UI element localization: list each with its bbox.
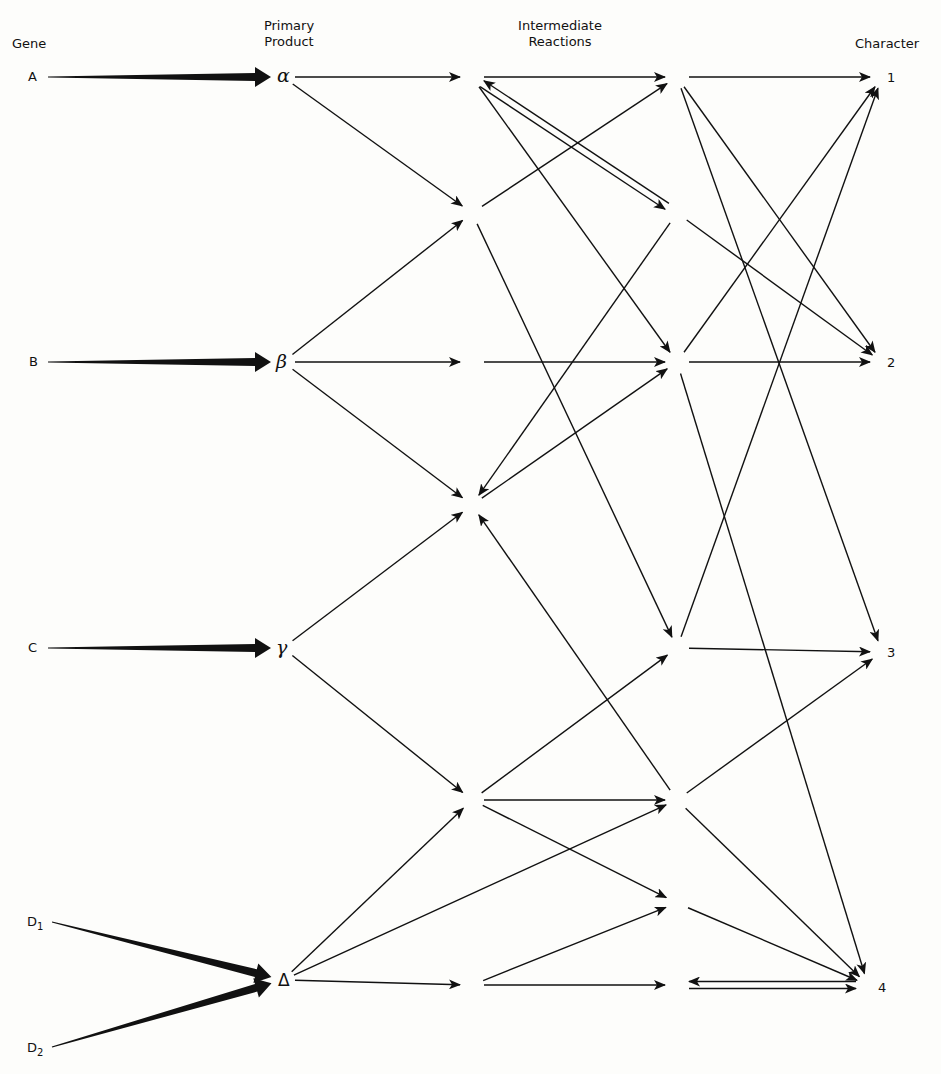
arrow-beta-to-I1b xyxy=(292,220,462,354)
arrow-gamma-to-I1e xyxy=(292,656,462,793)
character-4: 4 xyxy=(878,980,886,995)
arrow-I2b-to-I1a xyxy=(484,81,669,204)
header-gene: Gene xyxy=(12,36,46,52)
product-gamma: γ xyxy=(276,636,287,658)
character-3-text: 3 xyxy=(887,645,895,660)
header-character: Character xyxy=(855,36,919,52)
arrow-I1e-to-I2f xyxy=(483,805,667,897)
arrow-I2d-to-C3 xyxy=(689,648,870,652)
arrow-I1a-to-I2b xyxy=(480,87,665,210)
gene-d1-text: D xyxy=(27,914,37,929)
arrow-gamma-to-I1d xyxy=(293,512,463,641)
character-4-text: 4 xyxy=(878,980,886,995)
gene-label-c: C xyxy=(28,640,37,655)
gene-b-text: B xyxy=(29,354,38,369)
character-2: 2 xyxy=(887,355,895,370)
arrow-beta-to-I1d xyxy=(293,369,463,498)
arrow-I1e-to-I2d xyxy=(482,655,668,793)
arrow-I1f-to-I2f xyxy=(483,907,666,980)
gene-label-a: A xyxy=(28,69,37,84)
product-alpha-text: α xyxy=(277,64,290,86)
arrow-I2f-to-C4 xyxy=(688,908,857,981)
product-beta: β xyxy=(276,350,287,372)
thick-arrow-D2-to-delta xyxy=(52,978,272,1047)
header-primary-product: Primary Product xyxy=(254,18,324,50)
product-gamma-text: γ xyxy=(276,636,287,658)
arrow-I1b-to-I2d xyxy=(477,224,672,637)
header-intermediate-reactions: Intermediate Reactions xyxy=(510,18,610,50)
thick-arrow-B-to-beta xyxy=(48,352,271,372)
gene-character-network-diagram xyxy=(0,0,941,1074)
header-intermediate-line2: Reactions xyxy=(510,34,610,50)
gene-label-d1: D1 xyxy=(27,914,43,932)
arrow-I2e-to-C3 xyxy=(687,659,873,793)
arrow-delta-to-I1e xyxy=(292,808,464,971)
arrow-I1b-to-I2a xyxy=(482,84,667,207)
thick-arrow-A-to-alpha xyxy=(48,67,271,87)
character-3: 3 xyxy=(887,645,895,660)
arrow-delta-to-I1f xyxy=(295,980,460,984)
thick-arrow-D1-to-delta xyxy=(52,921,272,983)
arrow-I2e-to-C4 xyxy=(686,808,860,976)
arrow-alpha-to-I1b xyxy=(293,84,463,206)
character-1-text: 1 xyxy=(887,70,895,85)
gene-c-text: C xyxy=(28,640,37,655)
arrow-I2e-to-I1d xyxy=(479,515,670,790)
arrow-I2c-to-C4 xyxy=(681,373,865,973)
arrow-I2b-to-C2 xyxy=(687,220,873,355)
header-primary-line1: Primary xyxy=(254,18,324,34)
gene-a-text: A xyxy=(28,69,37,84)
header-intermediate-line1: Intermediate xyxy=(510,18,610,34)
header-primary-line2: Product xyxy=(254,34,324,50)
header-character-text: Character xyxy=(855,36,919,51)
character-2-text: 2 xyxy=(887,355,895,370)
gene-d2-subscript: 2 xyxy=(37,1047,43,1058)
header-gene-text: Gene xyxy=(12,36,46,51)
arrow-delta-to-I2e xyxy=(294,805,666,975)
character-1: 1 xyxy=(887,70,895,85)
product-delta: Δ xyxy=(278,970,290,990)
product-delta-text: Δ xyxy=(278,970,290,990)
arrow-I1d-to-I2c xyxy=(482,369,667,498)
gene-d2-text: D xyxy=(27,1040,37,1055)
reaction-arrows xyxy=(292,77,878,989)
gene-label-b: B xyxy=(29,354,38,369)
product-alpha: α xyxy=(277,64,290,86)
thick-arrow-C-to-gamma xyxy=(48,638,271,658)
gene-label-d2: D2 xyxy=(27,1040,43,1058)
gene-to-product-arrows xyxy=(48,67,272,1048)
arrow-I1a-to-I2c xyxy=(479,87,670,353)
gene-d1-subscript: 1 xyxy=(37,921,43,932)
arrow-I2b-to-I1d xyxy=(479,223,670,495)
product-beta-text: β xyxy=(276,350,287,372)
